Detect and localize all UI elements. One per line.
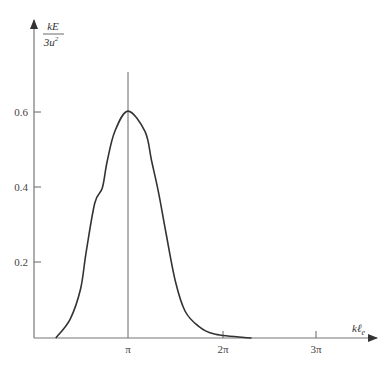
- y-tick-label-02: 0.2: [14, 256, 28, 268]
- x-tick-label-pi: π: [125, 343, 131, 355]
- y-axis-label: kE 3u2: [43, 20, 64, 48]
- y-tick-label-06: 0.6: [14, 106, 28, 118]
- x-axis-label: kℓe: [352, 322, 365, 337]
- y-label-denominator: 3u: [43, 36, 56, 48]
- y-label-numerator: kE: [47, 20, 59, 32]
- chart-canvas: 0.6 0.4 0.2 π 2π 3π kE 3u2 kℓe: [0, 0, 392, 367]
- x-tick-label-2pi: 2π: [217, 343, 229, 355]
- svg-text:3u2: 3u2: [43, 35, 59, 48]
- y-tick-label-04: 0.4: [14, 181, 28, 193]
- x-ticks: π 2π 3π: [125, 331, 322, 355]
- x-tick-label-3pi: 3π: [310, 343, 322, 355]
- energy-curve: [56, 111, 252, 338]
- y-ticks: 0.6 0.4 0.2: [14, 106, 41, 268]
- y-label-superscript: 2: [55, 35, 59, 43]
